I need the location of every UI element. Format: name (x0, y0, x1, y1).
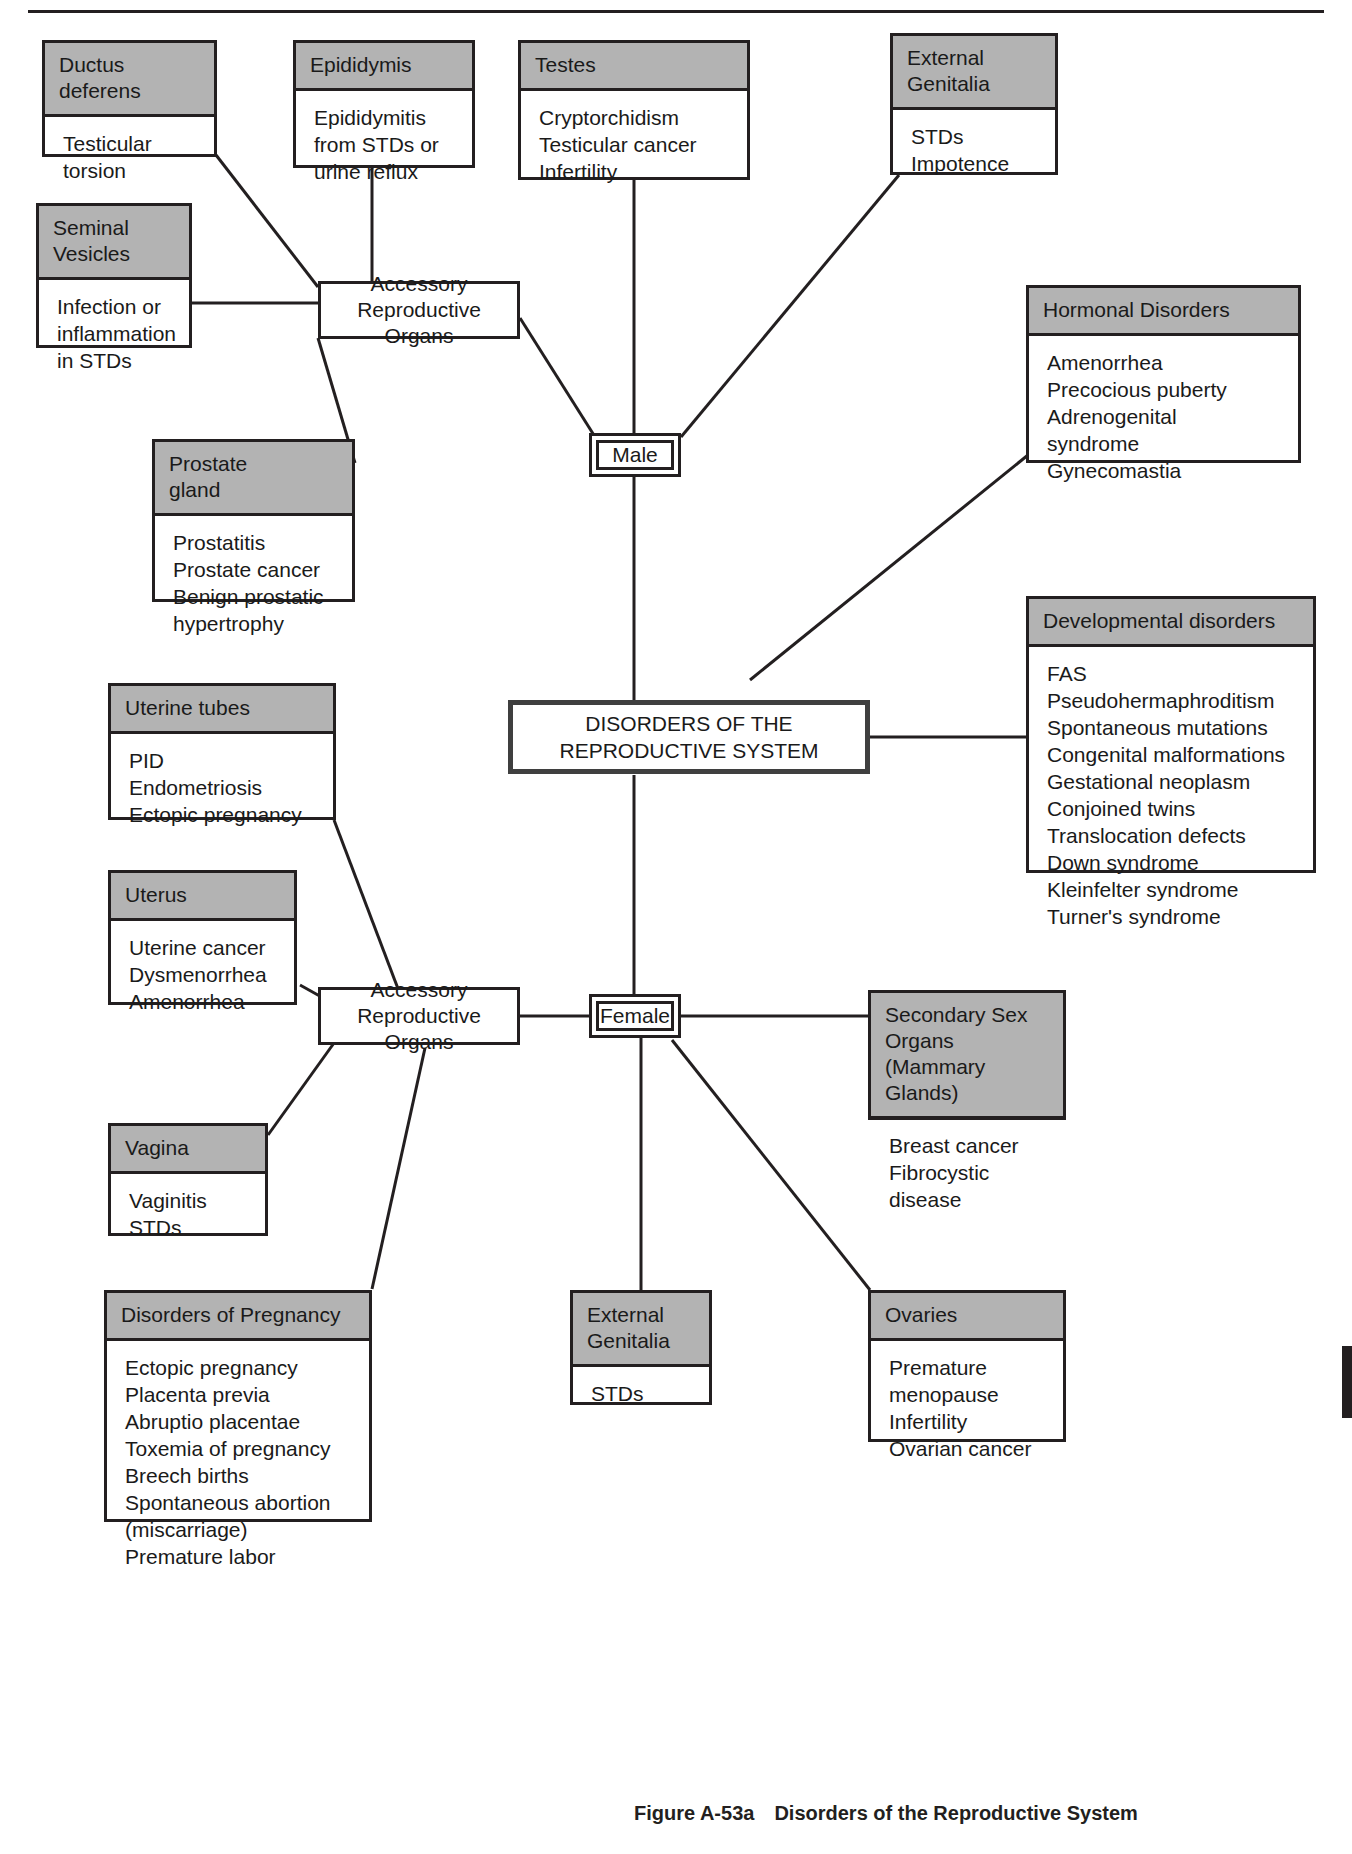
card-vagina[interactable]: Vagina Vaginitis STDs (108, 1123, 268, 1236)
card-items: Infection or inflammation in STDs (39, 280, 189, 388)
card-hormonal-disorders[interactable]: Hormonal Disorders Amenorrhea Precocious… (1026, 285, 1301, 463)
card-items: FAS Pseudohermaphroditism Spontaneous mu… (1029, 647, 1313, 944)
card-items: Amenorrhea Precocious puberty Adrenogeni… (1029, 336, 1298, 498)
wire-pregnancy-to-female-accessory (372, 1048, 425, 1289)
card-title: External Genitalia (573, 1293, 709, 1367)
node-label: Accessory Reproductive Organs (321, 977, 517, 1055)
card-developmental-disorders[interactable]: Developmental disorders FAS Pseudohermap… (1026, 596, 1316, 873)
node-label: Accessory Reproductive Organs (321, 271, 517, 349)
card-title: Vagina (111, 1126, 265, 1174)
card-items: STDs Impotence (893, 110, 1055, 191)
wire-uterine-tubes-to-female-accessory (334, 820, 400, 994)
top-rule-divider (28, 10, 1324, 13)
node-female[interactable]: Female (589, 994, 681, 1038)
card-title: External Genitalia (893, 36, 1055, 110)
card-title: Uterus (111, 873, 294, 921)
hub-label: DISORDERS OF THE REPRODUCTIVE SYSTEM (559, 710, 818, 764)
card-prostate-gland[interactable]: Prostate gland Prostatitis Prostate canc… (152, 439, 355, 602)
wire-female-to-ovaries (672, 1040, 870, 1290)
card-title: Uterine tubes (111, 686, 333, 734)
page-edge-tab (1342, 1346, 1352, 1418)
node-male-accessory-reproductive-organs[interactable]: Accessory Reproductive Organs (318, 281, 520, 339)
card-external-genitalia-male[interactable]: External Genitalia STDs Impotence (890, 33, 1058, 175)
card-items: Ectopic pregnancy Placenta previa Abrupt… (107, 1341, 369, 1584)
wire-vagina-to-female-accessory (268, 1043, 334, 1135)
card-ductus-deferens[interactable]: Ductus deferens Testicular torsion (42, 40, 217, 157)
card-items: Uterine cancer Dysmenorrhea Amenorrhea (111, 921, 294, 1029)
card-items: Prostatitis Prostate cancer Benign prost… (155, 516, 352, 651)
card-title: Ovaries (871, 1293, 1063, 1341)
figure-caption: Figure A-53aDisorders of the Reproductiv… (634, 1802, 1138, 1825)
card-ovaries[interactable]: Ovaries Premature menopause Infertility … (868, 1290, 1066, 1442)
wire-ext-genitalia-male-to-male (681, 175, 899, 437)
node-male[interactable]: Male (589, 433, 681, 477)
card-title: Epididymis (296, 43, 472, 91)
card-items: PID Endometriosis Ectopic pregnancy (111, 734, 333, 842)
card-title: Disorders of Pregnancy (107, 1293, 369, 1341)
card-items: STDs (573, 1367, 709, 1421)
card-items: Breast cancer Fibrocystic disease (871, 1119, 1063, 1227)
card-uterine-tubes[interactable]: Uterine tubes PID Endometriosis Ectopic … (108, 683, 336, 820)
card-testes[interactable]: Testes Cryptorchidism Testicular cancer … (518, 40, 750, 180)
card-items: Cryptorchidism Testicular cancer Inferti… (521, 91, 747, 199)
figure-canvas: Ductus deferens Testicular torsion Epidi… (0, 0, 1352, 1854)
card-items: Epididymitis from STDs or urine reflux (296, 91, 472, 199)
card-title: Ductus deferens (45, 43, 214, 117)
card-title: Seminal Vesicles (39, 206, 189, 280)
node-label: Male (596, 440, 674, 470)
card-items: Premature menopause Infertility Ovarian … (871, 1341, 1063, 1476)
card-items: Testicular torsion (45, 117, 214, 198)
card-items: Vaginitis STDs (111, 1174, 265, 1255)
card-title: Prostate gland (155, 442, 352, 516)
card-title: Secondary Sex Organs (Mammary Glands) (871, 993, 1063, 1119)
card-uterus[interactable]: Uterus Uterine cancer Dysmenorrhea Ameno… (108, 870, 297, 1005)
card-title: Hormonal Disorders (1029, 288, 1298, 336)
card-title: Developmental disorders (1029, 599, 1313, 647)
wire-hormonal-to-hub (750, 455, 1028, 680)
node-female-accessory-reproductive-organs[interactable]: Accessory Reproductive Organs (318, 987, 520, 1045)
card-title: Testes (521, 43, 747, 91)
node-disorders-of-the-reproductive-system[interactable]: DISORDERS OF THE REPRODUCTIVE SYSTEM (508, 700, 870, 774)
figure-title: Disorders of the Reproductive System (774, 1802, 1137, 1824)
card-disorders-of-pregnancy[interactable]: Disorders of Pregnancy Ectopic pregnancy… (104, 1290, 372, 1522)
card-epididymis[interactable]: Epididymis Epididymitis from STDs or uri… (293, 40, 475, 168)
node-label: Female (596, 1001, 674, 1031)
figure-number: Figure A-53a (634, 1802, 754, 1824)
wire-male-accessory-to-male (520, 318, 597, 440)
card-external-genitalia-female[interactable]: External Genitalia STDs (570, 1290, 712, 1405)
card-secondary-sex-organs[interactable]: Secondary Sex Organs (Mammary Glands) Br… (868, 990, 1066, 1120)
card-seminal-vesicles[interactable]: Seminal Vesicles Infection or inflammati… (36, 203, 192, 348)
